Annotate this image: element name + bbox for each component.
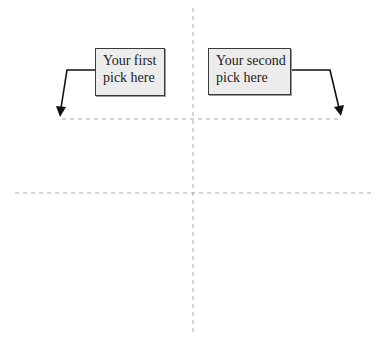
diagram-canvas [0,0,382,343]
first-pick-callout: Your first pick here [95,48,165,96]
second-pick-callout: Your second pick here [208,48,291,95]
first-pick-line-2: pick here [103,69,164,86]
first-pick-line-1: Your first [103,52,164,69]
second-pick-arrow-icon [290,70,344,116]
second-pick-line-1: Your second [216,52,290,69]
first-pick-arrow-icon [56,70,95,117]
second-pick-line-2: pick here [216,69,290,86]
